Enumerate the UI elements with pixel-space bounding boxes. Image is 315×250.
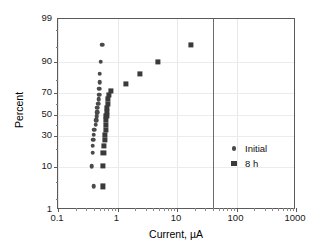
- data-point-initial: [95, 110, 100, 115]
- x-axis-minor-tick: [231, 208, 232, 211]
- x-axis-minor-tick: [174, 208, 175, 211]
- x-axis-minor-tick: [234, 208, 235, 211]
- x-axis-minor-tick: [223, 208, 224, 211]
- x-axis-minor-tick: [115, 208, 116, 211]
- x-axis-tick-label: 1000: [284, 213, 305, 223]
- x-axis-minor-tick: [112, 208, 113, 211]
- x-axis-minor-tick: [195, 208, 196, 211]
- x-axis-minor-tick: [254, 208, 255, 211]
- data-point-initial: [90, 164, 95, 169]
- x-axis-minor-tick: [213, 208, 214, 211]
- data-point-initial: [96, 101, 101, 106]
- y-axis-minor-tick: [56, 149, 59, 150]
- x-axis-minor-tick: [283, 208, 284, 211]
- y-axis-minor-tick: [56, 30, 59, 31]
- x-axis-minor-tick: [290, 208, 291, 211]
- data-point-initial: [95, 114, 100, 119]
- y-axis-tick-label: 50: [41, 109, 52, 119]
- data-point-initial: [92, 133, 97, 138]
- legend-item-initial: Initial: [228, 141, 267, 156]
- x-axis-tick-label: 1: [114, 213, 119, 223]
- x-axis-minor-tick: [153, 208, 154, 211]
- x-axis-minor-tick: [100, 208, 101, 211]
- gridline-vertical: [177, 19, 178, 208]
- x-axis-minor-tick: [94, 208, 95, 211]
- data-point-8h: [155, 59, 160, 64]
- data-point-initial: [94, 118, 99, 123]
- legend-label-8h: 8 h: [245, 159, 258, 169]
- y-axis-tick: [54, 136, 58, 137]
- data-point-8h: [101, 150, 106, 155]
- data-point-initial: [97, 80, 102, 85]
- data-point-initial: [97, 71, 102, 76]
- data-point-initial: [96, 97, 101, 102]
- y-axis-minor-tick: [56, 47, 59, 48]
- chart-legend: Initial 8 h: [228, 141, 267, 171]
- data-point-initial: [97, 92, 102, 97]
- x-axis-minor-tick: [86, 208, 87, 211]
- gridline-vertical: [118, 19, 119, 208]
- data-point-8h: [100, 184, 105, 189]
- y-axis-tick: [54, 115, 58, 116]
- circle-marker-icon: [228, 146, 240, 151]
- x-axis-minor-tick: [278, 208, 279, 211]
- y-axis-tick-label: 70: [41, 87, 52, 97]
- data-point-8h: [188, 42, 193, 47]
- y-axis-tick: [54, 62, 58, 63]
- data-point-8h: [103, 122, 108, 127]
- square-marker-icon: [228, 161, 240, 166]
- y-axis-minor-tick: [56, 182, 59, 183]
- x-axis-tick-labels: 0.11101001000: [57, 213, 295, 227]
- y-axis-tick-label: 90: [41, 56, 52, 66]
- data-point-8h: [100, 163, 105, 168]
- y-axis-tick-label: 99: [41, 13, 52, 23]
- x-axis-minor-tick: [287, 208, 288, 211]
- data-point-8h: [103, 132, 108, 137]
- data-point-8h: [102, 143, 107, 148]
- x-axis-minor-tick: [76, 208, 77, 211]
- legend-label-initial: Initial: [245, 144, 267, 154]
- gridline-vertical: [58, 19, 59, 208]
- y-axis-tick-label: 10: [41, 161, 52, 171]
- x-axis-tick-label: 100: [228, 213, 244, 223]
- gridline-vertical: [237, 19, 238, 208]
- data-point-8h: [105, 97, 110, 102]
- x-axis-minor-tick: [159, 208, 160, 211]
- x-axis-minor-tick: [227, 208, 228, 211]
- x-axis-tick-label: 0.1: [50, 213, 63, 223]
- x-axis-minor-tick: [265, 208, 266, 211]
- plot-frame: [57, 18, 295, 209]
- x-axis-minor-tick: [104, 208, 105, 211]
- gridline-horizontal: [58, 62, 294, 63]
- probability-plot-figure: Percent 1103050709099 0.11101001000 Curr…: [0, 0, 315, 250]
- y-axis-minor-tick: [56, 125, 59, 126]
- gridline-horizontal: [58, 93, 294, 94]
- data-point-initial: [90, 143, 95, 148]
- data-point-initial: [93, 123, 98, 128]
- x-axis-minor-tick: [135, 208, 136, 211]
- y-axis-minor-tick: [56, 80, 59, 81]
- data-point-8h: [103, 127, 108, 132]
- gridline-horizontal: [58, 115, 294, 116]
- data-point-initial: [90, 151, 95, 156]
- data-point-8h: [102, 137, 107, 142]
- x-axis-minor-tick: [168, 208, 169, 211]
- y-axis-tick-labels: 1103050709099: [0, 18, 52, 209]
- x-axis-minor-tick: [164, 208, 165, 211]
- plot-area: [58, 19, 294, 208]
- data-point-initial: [92, 184, 97, 189]
- y-axis-minor-tick: [56, 199, 59, 200]
- x-axis-minor-tick: [219, 208, 220, 211]
- x-axis-minor-tick: [108, 208, 109, 211]
- y-axis-minor-tick: [56, 104, 59, 105]
- data-point-initial: [98, 60, 103, 65]
- data-point-initial: [100, 43, 105, 48]
- x-axis-minor-tick: [146, 208, 147, 211]
- x-axis-title: Current, µA: [57, 228, 295, 240]
- x-axis-minor-tick: [171, 208, 172, 211]
- data-point-initial: [97, 86, 102, 91]
- x-axis-minor-tick: [272, 208, 273, 211]
- data-point-initial: [91, 137, 96, 142]
- y-axis-tick: [54, 167, 58, 168]
- x-axis-tick-label: 10: [171, 213, 182, 223]
